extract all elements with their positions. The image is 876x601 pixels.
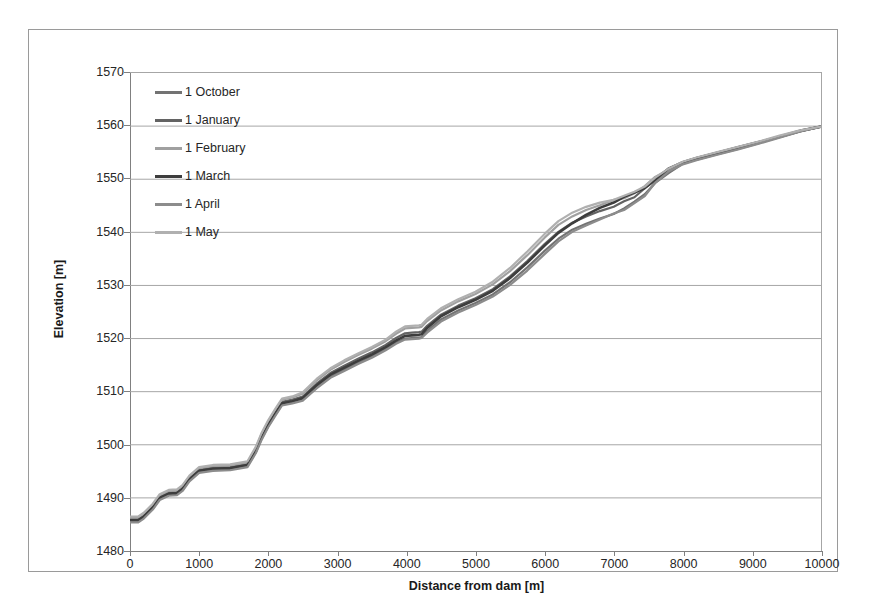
legend-item[interactable]: 1 April bbox=[155, 192, 295, 217]
x-tick-label: 5000 bbox=[441, 557, 511, 571]
x-tick-mark bbox=[614, 551, 615, 556]
legend-line-swatch bbox=[155, 147, 182, 149]
chart-legend: 1 October1 January1 February1 March1 Apr… bbox=[155, 80, 295, 248]
x-tick-label: 6000 bbox=[510, 557, 580, 571]
legend-line-swatch bbox=[155, 231, 182, 233]
legend-label: 1 January bbox=[185, 114, 240, 127]
x-tick-mark bbox=[545, 551, 546, 556]
legend-line-swatch bbox=[155, 119, 182, 121]
x-tick-label: 0 bbox=[95, 557, 165, 571]
x-tick-label: 2000 bbox=[233, 557, 303, 571]
x-tick-label: 4000 bbox=[372, 557, 442, 571]
x-tick-label: 3000 bbox=[303, 557, 373, 571]
x-tick-label: 7000 bbox=[579, 557, 649, 571]
legend-item[interactable]: 1 May bbox=[155, 220, 295, 245]
legend-label: 1 October bbox=[185, 86, 240, 99]
x-tick-mark bbox=[199, 551, 200, 556]
x-tick-mark bbox=[684, 551, 685, 556]
chart-figure: Elevation [m] 14801490150015101520153015… bbox=[0, 0, 876, 601]
legend-label: 1 March bbox=[185, 170, 230, 183]
legend-label: 1 May bbox=[185, 226, 219, 239]
x-tick-mark bbox=[268, 551, 269, 556]
legend-item[interactable]: 1 March bbox=[155, 164, 295, 189]
x-tick-mark bbox=[822, 551, 823, 556]
legend-line-swatch bbox=[155, 91, 182, 93]
x-tick-label: 10000 bbox=[787, 557, 857, 571]
x-tick-mark bbox=[476, 551, 477, 556]
x-axis-title: Distance from dam [m] bbox=[130, 579, 823, 593]
x-tick-label: 8000 bbox=[649, 557, 719, 571]
x-tick-mark bbox=[130, 551, 131, 556]
legend-line-swatch bbox=[155, 175, 182, 178]
chart-outer-frame: Elevation [m] 14801490150015101520153015… bbox=[28, 29, 838, 572]
legend-label: 1 April bbox=[185, 198, 220, 211]
x-tick-mark bbox=[338, 551, 339, 556]
x-tick-label: 9000 bbox=[718, 557, 788, 571]
x-tick-label: 1000 bbox=[164, 557, 234, 571]
legend-item[interactable]: 1 February bbox=[155, 136, 295, 161]
legend-label: 1 February bbox=[185, 142, 245, 155]
legend-item[interactable]: 1 October bbox=[155, 80, 295, 105]
x-tick-mark bbox=[753, 551, 754, 556]
legend-item[interactable]: 1 January bbox=[155, 108, 295, 133]
x-tick-mark bbox=[407, 551, 408, 556]
legend-line-swatch bbox=[155, 203, 182, 205]
